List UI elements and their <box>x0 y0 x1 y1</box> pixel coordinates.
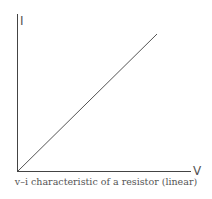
caption: v–i characteristic of a resistor (linear… <box>0 176 212 187</box>
vi-diagram: I V <box>0 0 212 199</box>
y-axis-label: I <box>20 14 24 28</box>
characteristic-line <box>18 34 157 171</box>
